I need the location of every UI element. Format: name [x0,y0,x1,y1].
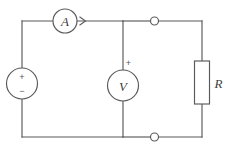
top-terminal[interactable] [151,17,159,25]
source-plus-sign: + [19,72,24,82]
voltage-source[interactable]: + − [7,68,38,99]
resistor-label: R [214,76,223,91]
resistor-body[interactable] [195,61,210,104]
resistor[interactable]: R [195,61,223,104]
source-minus-sign: − [19,86,24,96]
voltmeter-plus-sign: + [126,58,131,68]
terminal-node-icon-bottom[interactable] [151,133,159,141]
circuit-canvas: + − A V + R [0,0,229,149]
circuit-diagram: + − A V + R [0,0,229,149]
bottom-terminal[interactable] [151,133,159,141]
terminal-node-icon-top[interactable] [151,17,159,25]
ammeter-label: A [60,14,69,29]
